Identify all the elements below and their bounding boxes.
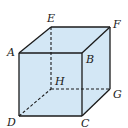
vertex-label-E: E [46, 12, 55, 25]
vertex-label-C: C [81, 117, 90, 128]
vertex-label-B: B [85, 53, 94, 66]
vertex-label-D: D [6, 116, 16, 128]
vertex-label-A: A [6, 46, 15, 59]
vertex-label-F: F [112, 18, 121, 31]
cube-diagram: E F A B H G D C [0, 0, 128, 128]
vertex-label-H: H [54, 75, 65, 88]
vertex-label-G: G [113, 88, 122, 101]
